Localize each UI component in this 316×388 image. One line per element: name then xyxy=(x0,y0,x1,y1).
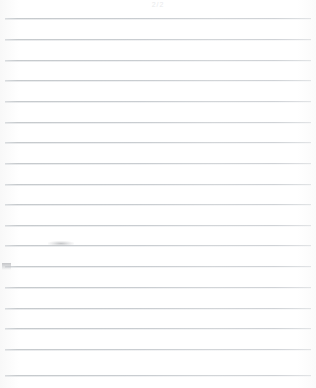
ruled-line xyxy=(5,39,311,40)
ruled-line xyxy=(5,245,311,246)
notebook-page: 2/2 xyxy=(0,0,316,388)
ruled-line xyxy=(5,163,311,164)
ruled-line xyxy=(5,349,311,350)
ruled-lines-group xyxy=(0,0,316,388)
ruled-line xyxy=(5,225,311,226)
ruled-line xyxy=(5,80,311,81)
ruled-line xyxy=(5,60,311,61)
ruled-line xyxy=(5,266,311,267)
ruled-line xyxy=(5,375,311,376)
ruled-line xyxy=(5,142,311,143)
ruled-line xyxy=(5,122,311,123)
ruled-line xyxy=(5,101,311,102)
ruled-line xyxy=(5,18,311,19)
ruled-line xyxy=(5,328,311,329)
ruled-line xyxy=(5,184,311,185)
ruled-line xyxy=(5,287,311,288)
ruled-line xyxy=(5,204,311,205)
ruled-line xyxy=(5,308,311,309)
